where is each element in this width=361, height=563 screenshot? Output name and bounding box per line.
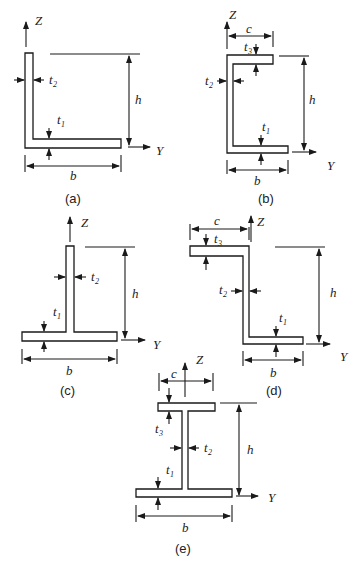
- c-label: c: [171, 366, 177, 381]
- h-label: h: [132, 286, 139, 301]
- panel-d-z-section: Z c t 3 h Y t 2 t 1 b (d): [190, 213, 349, 398]
- t-section-outline: [22, 246, 117, 341]
- z-axis-label: Z: [196, 352, 204, 367]
- caption-c: (c): [60, 383, 75, 398]
- panel-e-i-section: Z c t 3 h Y t 2 t 1 b (e): [136, 352, 277, 556]
- y-axis-label: Y: [268, 490, 277, 505]
- caption-a: (a): [65, 191, 81, 206]
- z-axis-label: Z: [229, 7, 237, 22]
- c-label: c: [246, 21, 252, 36]
- h-label: h: [247, 442, 254, 457]
- y-axis-label: Y: [153, 337, 162, 352]
- i-section-outline: [136, 403, 232, 497]
- t1-subscript: 1: [266, 127, 270, 136]
- t1-subscript: 1: [170, 470, 174, 479]
- z-section-outline: [190, 246, 303, 344]
- z-axis-label: Z: [35, 13, 43, 28]
- panel-c-t-section: Z h Y t 2 t 1 b (c): [22, 215, 162, 398]
- y-axis-label: Y: [327, 158, 336, 173]
- caption-d: (d): [266, 383, 282, 398]
- t2-subscript: 2: [223, 290, 227, 299]
- t1-subscript: 1: [57, 312, 61, 321]
- z-axis-label: Z: [81, 215, 89, 230]
- b-label: b: [66, 363, 73, 378]
- b-label: b: [270, 365, 277, 380]
- t2-subscript: 2: [95, 277, 99, 286]
- panel-a-l-section: Z Y h b t 2 t 1 (a): [14, 13, 165, 206]
- b-label: b: [182, 520, 189, 535]
- caption-b: (b): [258, 191, 274, 206]
- t3-subscript: 3: [247, 47, 252, 56]
- t3-subscript: 3: [158, 429, 163, 438]
- y-axis-label: Y: [156, 143, 165, 158]
- t1-subscript: 1: [61, 120, 65, 129]
- c-section-outline: [227, 55, 288, 153]
- b-label: b: [254, 173, 261, 188]
- h-label: h: [330, 285, 337, 300]
- b-label: b: [70, 168, 77, 183]
- y-axis-label: Y: [340, 349, 349, 364]
- t2-subscript: 2: [209, 81, 213, 90]
- t2-subscript: 2: [208, 448, 212, 457]
- t2-subscript: 2: [53, 80, 57, 89]
- cross-section-figure: Z Y h b t 2 t 1 (a) Z c t: [0, 0, 361, 563]
- h-label: h: [309, 92, 316, 107]
- panel-b-c-section: Z c t 3 Y h t 2 t 1 b (b): [205, 7, 336, 206]
- t1-subscript: 1: [283, 318, 287, 327]
- l-section-outline: [25, 53, 121, 148]
- caption-e: (e): [175, 541, 191, 556]
- h-label: h: [135, 92, 142, 107]
- c-label: c: [214, 213, 220, 228]
- z-axis-label: Z: [257, 214, 265, 229]
- t3-subscript: 3: [217, 239, 222, 248]
